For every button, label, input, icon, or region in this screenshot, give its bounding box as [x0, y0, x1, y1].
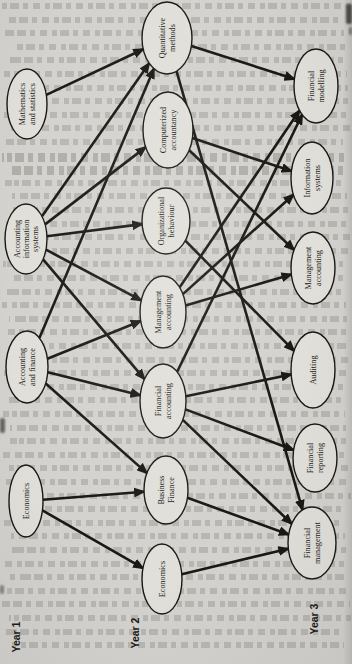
- edge-fa-fmg-arrow: [183, 420, 292, 524]
- edge-ais-fa-arrow: [43, 259, 144, 379]
- edge-ais-qm-arrow: [42, 63, 149, 216]
- node-af-label: Accountingand finance: [18, 348, 36, 386]
- edge-ais-ma2-arrow: [46, 250, 141, 301]
- year-label-2: Year 2: [129, 617, 141, 648]
- node-e2-label: Economics: [158, 561, 167, 597]
- edge-fa-au-arrow: [186, 375, 291, 397]
- edge-ms-qm-arrow: [46, 49, 143, 95]
- node-ms-label: Mathematicsand statistics: [18, 83, 36, 125]
- year-label-3: Year 3: [308, 603, 320, 634]
- node-e1-label: Economics: [22, 483, 31, 519]
- node-fa-label: Financialaccounting: [154, 383, 172, 419]
- node-fr-label: Financialreporting: [306, 442, 324, 473]
- curriculum-flow-diagram: Mathematicsand statisticsAccountinginfor…: [0, 0, 352, 664]
- node-au-label: Auditing: [309, 355, 318, 384]
- node-fm-label: Financialmodelling: [307, 69, 325, 102]
- edge-af-bf-arrow: [46, 384, 147, 474]
- edge-ais-ob-arrow: [47, 224, 142, 236]
- edge-ais-ca-arrow: [45, 147, 146, 224]
- node-ma3-label: Managementaccounting: [304, 246, 322, 289]
- edge-e1-e2-arrow: [42, 510, 143, 568]
- node-ma2-label: Managementaccounting: [154, 290, 172, 333]
- edge-e2-fmg-arrow: [182, 549, 288, 575]
- edge-qm-fm-arrow: [191, 46, 294, 79]
- node-bf-label: BusinessFinance: [157, 475, 175, 504]
- course-nodes: Mathematicsand statisticsAccountinginfor…: [5, 2, 338, 614]
- edge-bf-fmg-arrow: [187, 498, 288, 535]
- node-ca-label: Computerizedaccountancy: [159, 107, 177, 153]
- edge-ma2-fm-arrow: [180, 110, 300, 287]
- edge-af-ma2-arrow: [47, 321, 140, 359]
- edge-fa-fr-arrow: [185, 409, 293, 450]
- edge-af-fa-arrow: [48, 372, 141, 395]
- scanned-book-page: Mathematicsand statisticsAccountinginfor…: [0, 0, 352, 664]
- edge-e1-bf-arrow: [43, 492, 144, 500]
- year-label-1: Year 1: [10, 621, 22, 652]
